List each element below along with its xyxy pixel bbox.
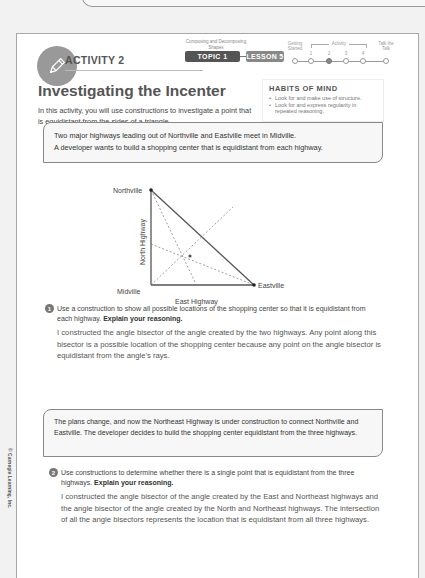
- label-midville: Midville: [117, 288, 140, 295]
- label-eastville: Eastville: [258, 282, 284, 289]
- answer-1[interactable]: I constructed the angle bisector of the …: [57, 327, 382, 362]
- scenario-line: Two major highways leading out of Northv…: [54, 130, 372, 142]
- question-number-badge: 1: [45, 304, 54, 313]
- question-emphasis: Explain your reasoning.: [103, 315, 182, 322]
- scenario-line: A developer wants to build a shopping ce…: [54, 142, 372, 154]
- label-north-highway: North Highway: [139, 219, 147, 265]
- question-2: 2 Use constructions to determine whether…: [61, 468, 386, 488]
- progress-step-talk-the-talk[interactable]: [383, 58, 389, 64]
- progress-label-getting-started: Getting Started: [287, 41, 303, 51]
- question-number-badge: 2: [49, 468, 58, 477]
- scenario-text: The plans change, and now the Northeast …: [54, 417, 372, 438]
- previous-page-edge: [82, 0, 425, 7]
- progress-step-1[interactable]: [308, 58, 314, 64]
- progress-step-3[interactable]: [343, 58, 349, 64]
- activity-label: ACTIVITY 2: [65, 54, 124, 66]
- activity-badge: [37, 46, 77, 86]
- scenario-box: Two major highways leading out of Northv…: [43, 122, 383, 163]
- habits-of-mind-box: HABITS OF MIND Look for and make use of …: [262, 79, 384, 122]
- progress-step-getting-started[interactable]: [292, 58, 298, 64]
- question-emphasis: Explain your reasoning.: [94, 479, 173, 486]
- copyright-notice: © Carnegie Learning, Inc.: [7, 448, 12, 508]
- scenario-box-2: The plans change, and now the Northeast …: [43, 409, 383, 457]
- question-1: 1 Use a construction to show all possibl…: [57, 304, 382, 324]
- progress-step-4[interactable]: [360, 58, 366, 64]
- habits-title: HABITS OF MIND: [269, 84, 377, 93]
- habit-item: Look for and express regularity in repea…: [269, 102, 377, 115]
- lesson-badge[interactable]: LESSON 5: [246, 51, 284, 62]
- progress-label-1: 1: [307, 51, 315, 56]
- progress-label-talk-the-talk: Talk the Talk: [375, 41, 397, 51]
- activity-group-label: Activity: [329, 41, 349, 46]
- topic-badge[interactable]: TOPIC 1: [185, 51, 240, 62]
- label-northville: Northville: [113, 187, 142, 194]
- answer-2[interactable]: I constructed the angle bisector of the …: [61, 491, 386, 526]
- divider: [65, 70, 203, 71]
- page-title: Investigating the Incenter: [38, 82, 226, 100]
- worksheet-page: ACTIVITY 2 Composing and Decomposing Sha…: [16, 33, 419, 578]
- highway-triangle-diagram: Northville Eastville Midville East Highw…: [111, 182, 311, 312]
- progress-label-2: 2: [325, 51, 333, 56]
- progress-label-3: 3: [342, 51, 350, 56]
- lesson-progress-tracker: Activity Getting Started 1 2 3 4 Talk th…: [287, 39, 407, 69]
- progress-step-2[interactable]: [326, 58, 332, 64]
- progress-label-4: 4: [359, 51, 367, 56]
- topic-caption: Composing and Decomposing Shapes: [181, 39, 251, 50]
